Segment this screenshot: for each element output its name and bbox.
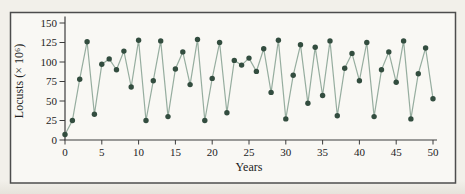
y-tick-label: 100 <box>41 56 58 68</box>
x-tick-label: 0 <box>62 146 68 158</box>
data-point <box>84 39 89 44</box>
x-tick-label: 20 <box>207 146 219 158</box>
data-point <box>268 90 273 95</box>
data-point <box>335 113 340 118</box>
data-point <box>121 48 126 53</box>
scanned-figure-page: 0255075100125150 05101520253035404550 Ye… <box>0 0 465 194</box>
data-point <box>173 66 178 71</box>
data-point <box>217 40 222 45</box>
data-point <box>320 93 325 98</box>
data-point <box>313 45 318 50</box>
x-tick-label: 35 <box>317 146 329 158</box>
data-point <box>401 38 406 43</box>
x-axis-title: Years <box>236 160 263 174</box>
y-axis-title: Locusts (× 10⁶) <box>12 44 26 118</box>
data-point <box>136 38 141 43</box>
data-point <box>62 132 67 137</box>
data-point <box>423 45 428 50</box>
x-tick-label: 5 <box>99 146 105 158</box>
data-point <box>394 80 399 85</box>
data-point <box>342 66 347 71</box>
data-point <box>165 114 170 119</box>
data-point <box>276 38 281 43</box>
data-point <box>151 78 156 83</box>
data-point <box>254 69 259 74</box>
figure-border <box>11 13 456 184</box>
x-tick-label: 25 <box>244 146 256 158</box>
data-point <box>416 71 421 76</box>
data-point <box>430 96 435 101</box>
locusts-line-chart: 0255075100125150 05101520253035404550 Ye… <box>0 0 465 194</box>
data-point <box>386 49 391 54</box>
y-tick-label: 50 <box>46 95 58 107</box>
data-point <box>77 77 82 82</box>
data-point <box>224 110 229 115</box>
data-point <box>92 112 97 117</box>
data-point <box>261 46 266 51</box>
data-point <box>371 114 376 119</box>
data-point <box>246 55 251 60</box>
y-tick-label: 0 <box>52 134 58 146</box>
x-tick-label: 30 <box>280 146 292 158</box>
data-point <box>408 116 413 121</box>
data-point <box>298 42 303 47</box>
y-tick-label: 125 <box>41 36 58 48</box>
data-point <box>327 38 332 43</box>
data-point <box>202 118 207 123</box>
data-point <box>129 84 134 89</box>
y-tick-label: 25 <box>46 114 58 126</box>
x-tick-label: 40 <box>354 146 366 158</box>
data-point <box>357 78 362 83</box>
data-point <box>70 118 75 123</box>
data-point <box>239 62 244 67</box>
data-point <box>291 73 296 78</box>
data-point <box>114 67 119 72</box>
data-point <box>349 51 354 56</box>
data-point <box>379 67 384 72</box>
data-point <box>143 118 148 123</box>
data-point <box>283 116 288 121</box>
data-point <box>158 38 163 43</box>
data-point <box>232 58 237 63</box>
data-point <box>107 56 112 61</box>
x-tick-label: 10 <box>133 146 145 158</box>
data-point <box>195 37 200 42</box>
data-point <box>187 82 192 87</box>
x-tick-label: 50 <box>428 146 440 158</box>
data-point <box>305 101 310 106</box>
data-point <box>99 62 104 67</box>
data-point <box>210 76 215 81</box>
y-tick-label: 75 <box>46 75 58 87</box>
x-tick-label: 45 <box>391 146 403 158</box>
x-tick-label: 15 <box>170 146 182 158</box>
data-point <box>180 49 185 54</box>
data-point <box>364 40 369 45</box>
y-tick-label: 150 <box>41 17 58 29</box>
